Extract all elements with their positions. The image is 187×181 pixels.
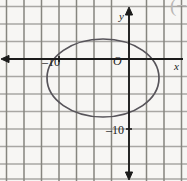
coordinate-plane-figure: x y O –10 –10 (− [0, 0, 187, 181]
y-axis-up-arrowhead [125, 7, 132, 15]
ellipse-curve [47, 39, 159, 117]
cropped-corner-text: (− [170, 0, 187, 15]
grid-vertical-lines [7, 0, 182, 181]
x-axis-left-arrowhead [1, 55, 9, 62]
x-axis-label: x [173, 60, 179, 72]
y-tick-label-minus-ten: –10 [105, 123, 124, 137]
origin-label: O [113, 54, 122, 68]
y-axis-label: y [118, 10, 124, 22]
graph-canvas: x y O –10 –10 [0, 0, 187, 181]
x-tick-label-minus-ten: –10 [41, 55, 60, 69]
